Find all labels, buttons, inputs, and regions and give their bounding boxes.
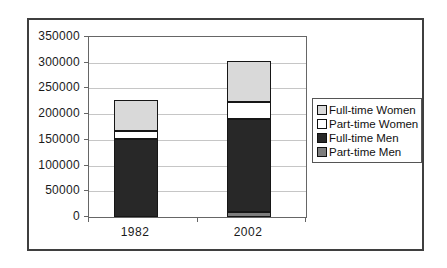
y-axis-tick (84, 165, 88, 166)
y-axis-tick-label: 350000 (28, 30, 80, 43)
gridline-300000 (89, 63, 306, 64)
legend-item-label: Full-time Women (329, 104, 416, 116)
y-axis-tick (84, 36, 88, 37)
legend-item-label: Part-time Women (329, 118, 418, 130)
bar-segment-1982-part-time-women (114, 131, 158, 139)
legend-swatch-icon (317, 147, 327, 157)
chart-frame: Full-time WomenPart-time WomenFull-time … (27, 18, 424, 251)
y-axis-tick-label: 300000 (28, 56, 80, 69)
y-axis-tick-label: 150000 (28, 133, 80, 146)
x-axis-tick (88, 218, 89, 222)
legend-item-part-time-men: Part-time Men (317, 145, 418, 158)
legend-swatch-icon (317, 133, 327, 143)
x-axis-tick (305, 218, 306, 222)
y-axis-tick-label: 200000 (28, 107, 80, 120)
legend: Full-time WomenPart-time WomenFull-time … (312, 98, 422, 163)
x-axis-category-label: 2002 (218, 225, 278, 239)
x-axis-tick (197, 218, 198, 222)
legend-item-part-time-women: Part-time Women (317, 117, 418, 130)
gridline-250000 (89, 88, 306, 89)
legend-swatch-icon (317, 119, 327, 129)
y-axis-tick-label: 50000 (28, 184, 80, 197)
y-axis-tick (84, 139, 88, 140)
legend-item-full-time-men: Full-time Men (317, 131, 418, 144)
bar-segment-2002-full-time-women (227, 61, 271, 102)
bar-segment-2002-part-time-men (227, 212, 271, 217)
bar-segment-2002-part-time-women (227, 102, 271, 119)
plot-area (88, 36, 307, 218)
y-axis-tick (84, 62, 88, 63)
legend-item-full-time-women: Full-time Women (317, 103, 418, 116)
y-axis-tick (84, 87, 88, 88)
legend-item-label: Part-time Men (329, 146, 401, 158)
x-axis-category-label: 1982 (105, 225, 165, 239)
y-axis-tick (84, 113, 88, 114)
legend-swatch-icon (317, 105, 327, 115)
y-axis-tick-label: 250000 (28, 81, 80, 94)
legend-item-label: Full-time Men (329, 132, 399, 144)
bar-segment-1982-full-time-women (114, 100, 158, 131)
y-axis-tick (84, 216, 88, 217)
bar-segment-1982-full-time-men (114, 139, 158, 217)
y-axis-tick (84, 190, 88, 191)
y-axis-tick-label: 100000 (28, 159, 80, 172)
page: Full-time WomenPart-time WomenFull-time … (0, 0, 447, 268)
bar-segment-2002-full-time-men (227, 119, 271, 212)
y-axis-tick-label: 0 (28, 210, 80, 223)
